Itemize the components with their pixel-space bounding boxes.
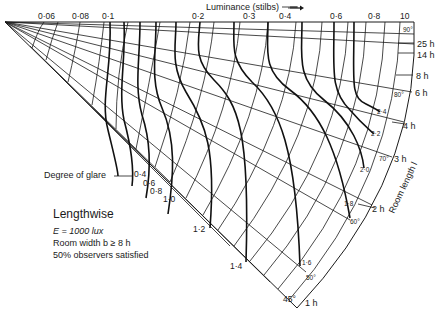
length-6h: 6 h bbox=[415, 88, 428, 98]
room-length-axis-label: Room length l bbox=[387, 160, 420, 215]
length-14h: 14 h bbox=[417, 50, 435, 60]
angle-70: 70° bbox=[379, 155, 389, 162]
tick-0.06: 0·06 bbox=[38, 11, 55, 21]
tick-10: 10 bbox=[400, 11, 410, 21]
length-25h: 25 h bbox=[417, 39, 435, 49]
angle-90: 90° bbox=[403, 26, 413, 33]
illuminance-note: E = 1000 lux bbox=[53, 226, 104, 236]
length-1h: 1 h bbox=[305, 298, 318, 308]
luminance-ticks: 0·06 0·08 0·1 0·2 0·3 0·4 0·6 0·8 10 bbox=[38, 11, 410, 21]
angle-80: 80° bbox=[394, 91, 404, 98]
glare-2.0: 2·0 bbox=[360, 166, 370, 173]
tick-0.08: 0·08 bbox=[72, 11, 89, 21]
glare-1.8: 1·8 bbox=[344, 200, 354, 207]
glare-1.0: 1·0 bbox=[163, 194, 176, 204]
tick-0.4: 0·4 bbox=[279, 11, 292, 21]
glare-curves bbox=[105, 22, 380, 266]
tick-0.8: 0·8 bbox=[368, 11, 381, 21]
tick-0.1: 0·1 bbox=[102, 11, 115, 21]
room-length-ticks: 25 h 14 h 8 h 6 h 4 h 3 h 2 h 1 h bbox=[305, 39, 435, 308]
length-4h: 4 h bbox=[403, 121, 416, 131]
tick-0.3: 0·3 bbox=[243, 11, 256, 21]
angle-45: 45° bbox=[283, 294, 296, 304]
room-width-note: Room width b ≥ 8 h bbox=[53, 238, 130, 248]
glare-1.4: 1·4 bbox=[230, 261, 243, 271]
glare-1.6: 1·6 bbox=[302, 259, 312, 266]
length-2h: 2 h bbox=[372, 204, 385, 214]
glare-nomogram: Luminance (stilbs) 0·06 0·08 0·1 0·2 0·3… bbox=[0, 0, 437, 310]
nomogram-frame bbox=[5, 22, 414, 308]
legend-block: Lengthwise E = 1000 lux Room width b ≥ 8… bbox=[53, 207, 149, 260]
tick-0.6: 0·6 bbox=[330, 11, 343, 21]
glare-2.4: 2·4 bbox=[377, 108, 387, 115]
lengthwise-heading: Lengthwise bbox=[53, 207, 114, 221]
glare-0.8: 0·8 bbox=[150, 186, 163, 196]
length-3h: 3 h bbox=[394, 154, 407, 164]
degree-of-glare-label: Degree of glare bbox=[44, 170, 106, 180]
angle-60: 60° bbox=[350, 218, 360, 225]
glare-2.2: 2·2 bbox=[371, 130, 381, 137]
criterion-note: 50% observers satisfied bbox=[53, 250, 149, 260]
length-8h: 8 h bbox=[416, 71, 429, 81]
tick-0.2: 0·2 bbox=[192, 11, 205, 21]
angle-50: 50° bbox=[306, 274, 316, 281]
glare-1.2: 1·2 bbox=[193, 224, 206, 234]
